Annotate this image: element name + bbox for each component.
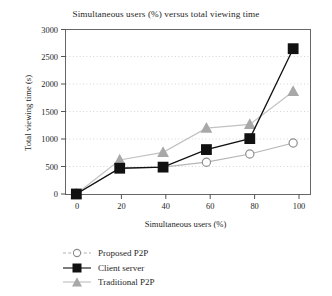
- ytick-label-3000: 3000: [41, 26, 58, 35]
- ytick-label-0: 0: [54, 190, 58, 199]
- open-circle-icon: [62, 246, 92, 260]
- data-point-circle: [246, 150, 254, 158]
- xtick-label-0: 0: [75, 202, 79, 211]
- ytick-label-1000: 1000: [41, 135, 58, 144]
- x-axis-label: Simultaneous users (%): [60, 219, 311, 229]
- legend-label-proposed-p2p: Proposed P2P: [98, 248, 148, 258]
- data-point-square: [71, 189, 82, 200]
- ytick-label-2500: 2500: [41, 53, 58, 62]
- ytick-label-500: 500: [45, 163, 58, 172]
- xtick-label-60: 60: [206, 202, 214, 211]
- data-point-circle: [289, 139, 297, 147]
- xtick-label-20: 20: [117, 202, 125, 211]
- filled-triangle-icon: [62, 275, 92, 289]
- ytick-label-2000: 2000: [41, 80, 58, 89]
- data-point-square: [201, 144, 212, 155]
- data-point-square: [158, 162, 169, 173]
- legend-item-proposed-p2p[interactable]: Proposed P2P: [62, 246, 282, 261]
- chart-legend: Proposed P2P Client server Traditional P…: [62, 246, 282, 290]
- data-point-square: [244, 133, 255, 144]
- legend-label-traditional-p2p: Traditional P2P: [98, 277, 154, 287]
- chart-figure: Simultaneous users (%) versus total view…: [0, 0, 332, 296]
- filled-square-icon: [62, 261, 92, 275]
- legend-item-client-server[interactable]: Client server: [62, 261, 282, 276]
- data-point-square: [114, 163, 125, 174]
- xtick-label-80: 80: [250, 202, 258, 211]
- data-point-circle: [202, 158, 210, 166]
- legend-label-client-server: Client server: [98, 263, 144, 273]
- ytick-label-1500: 1500: [41, 108, 58, 117]
- xtick-label-40: 40: [162, 202, 170, 211]
- xtick-label-100: 100: [293, 202, 306, 211]
- legend-item-traditional-p2p[interactable]: Traditional P2P: [62, 275, 282, 290]
- data-point-square: [288, 43, 299, 54]
